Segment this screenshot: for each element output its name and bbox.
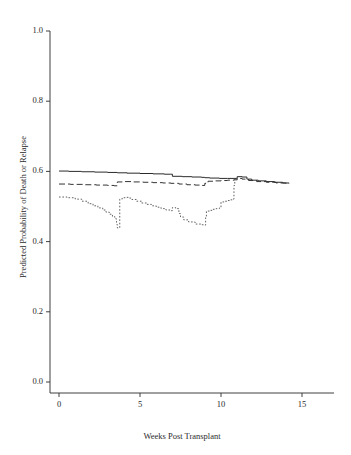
y-tick-label: 0.4	[32, 236, 43, 246]
plot-background	[0, 0, 351, 455]
y-tick-label: 0.8	[32, 95, 43, 105]
chart-figure: 0.00.20.40.60.81.0 051015 Weeks Post Tra…	[0, 0, 351, 455]
plot-canvas: 0.00.20.40.60.81.0 051015 Weeks Post Tra…	[0, 0, 351, 455]
x-tick-label: 15	[298, 399, 307, 409]
x-tick-label: 10	[217, 399, 226, 409]
y-tick-label: 1.0	[32, 25, 43, 35]
y-axis-title: Predicted Probability of Death or Relaps…	[18, 136, 28, 278]
y-tick-label: 0.6	[32, 165, 43, 175]
y-tick-label: 0.2	[32, 306, 43, 316]
x-tick-label: 0	[57, 399, 61, 409]
x-axis-title: Weeks Post Transplant	[143, 431, 221, 441]
x-tick-label: 5	[138, 399, 142, 409]
y-tick-label: 0.0	[32, 376, 43, 386]
